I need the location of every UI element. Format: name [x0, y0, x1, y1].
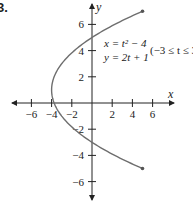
x-tick-label: −4: [46, 108, 58, 120]
x-tick-label: 4: [130, 108, 136, 120]
x-axis-label: x: [167, 87, 174, 101]
y-tick-label: 2: [79, 71, 85, 83]
equation-x: x = t² − 4: [103, 37, 147, 49]
x-tick-label: 6: [150, 108, 156, 120]
curve-endpoints: [141, 10, 145, 171]
parametric-plot: −6−4−2246−6−4−2246 x y x = t² − 4 y = 2t…: [0, 0, 193, 204]
x-tick-label: −2: [66, 108, 78, 120]
endpoint-dot: [141, 167, 145, 171]
x-tick-label: −6: [26, 108, 38, 120]
y-tick-label: 6: [79, 18, 85, 30]
equation-y: y = 2t + 1: [103, 51, 149, 63]
x-tick-label: 2: [109, 108, 115, 120]
parametric-curve: [52, 11, 143, 168]
y-tick-label: −6: [72, 176, 84, 188]
endpoint-dot: [141, 10, 145, 14]
y-tick-label: −4: [72, 149, 84, 161]
y-axis-label: y: [95, 0, 102, 14]
parameter-range: (−3 ≤ t ≤ 3): [150, 44, 193, 57]
